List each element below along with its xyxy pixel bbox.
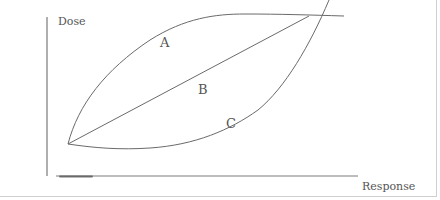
curve-c-label: C (226, 117, 236, 130)
y-axis-label: Dose (58, 16, 86, 27)
curve-a-label: A (160, 36, 169, 49)
curve-b-label: B (198, 83, 208, 96)
x-axis-label: Response (362, 181, 415, 192)
curve-a (68, 14, 344, 144)
line-b (68, 16, 309, 144)
dose-response-diagram (0, 0, 440, 200)
